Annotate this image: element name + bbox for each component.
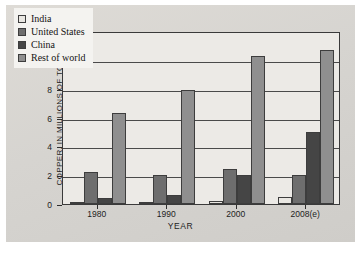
y-tick-mark [57, 176, 62, 177]
bar-rest-of-world-1980 [112, 113, 126, 204]
chart-legend: IndiaUnited StatesChinaRest of world [14, 8, 93, 68]
gridline [63, 148, 339, 149]
bar-india-1980 [70, 202, 84, 204]
bar-india-1990 [139, 202, 153, 204]
gridline [63, 120, 339, 121]
bar-united-states-1980 [84, 172, 98, 204]
legend-item-united-states: United States [18, 25, 85, 38]
bar-china-2000 [237, 175, 251, 204]
gridline [63, 62, 339, 63]
bar-rest-of-world-2000 [251, 56, 265, 204]
bar-china-2008(e) [306, 132, 320, 204]
x-tick-label-2000: 2000 [226, 209, 245, 219]
legend-label: India [31, 13, 52, 24]
bar-india-2008(e) [278, 197, 292, 204]
bar-chart-figure: COPPER, IN MILLIONS OF TONS 024681012 19… [0, 0, 361, 259]
y-tick-mark [57, 90, 62, 91]
legend-label: United States [31, 26, 85, 37]
legend-item-china: China [18, 38, 85, 51]
y-tick-mark [57, 205, 62, 206]
bar-india-2000 [209, 201, 223, 204]
y-tick-label: 6 [0, 114, 52, 124]
legend-swatch-china [18, 41, 26, 49]
y-tick-label: 8 [0, 85, 52, 95]
y-tick-label: 4 [0, 142, 52, 152]
x-axis-title: YEAR [0, 221, 361, 231]
legend-label: China [31, 39, 55, 50]
y-tick-mark [57, 147, 62, 148]
legend-label: Rest of world [31, 52, 85, 63]
bar-rest-of-world-2008(e) [320, 50, 334, 204]
legend-item-rest-of-world: Rest of world [18, 51, 85, 64]
bar-china-1990 [167, 195, 181, 204]
bar-united-states-2000 [223, 169, 237, 204]
legend-swatch-rest-of-world [18, 54, 26, 62]
bar-united-states-2008(e) [292, 175, 306, 204]
x-tick-label-2008(e): 2008(e) [291, 209, 320, 219]
bar-rest-of-world-1990 [181, 90, 195, 204]
legend-swatch-india [18, 15, 26, 23]
legend-swatch-united-states [18, 28, 26, 36]
bar-united-states-1990 [153, 175, 167, 204]
plot-area [62, 32, 340, 205]
legend-item-india: India [18, 12, 85, 25]
gridline [63, 91, 339, 92]
y-tick-label: 2 [0, 171, 52, 181]
x-tick-label-1980: 1980 [87, 209, 106, 219]
x-tick-label-1990: 1990 [157, 209, 176, 219]
bar-china-1980 [98, 198, 112, 204]
y-tick-mark [57, 119, 62, 120]
y-tick-label: 0 [0, 200, 52, 210]
